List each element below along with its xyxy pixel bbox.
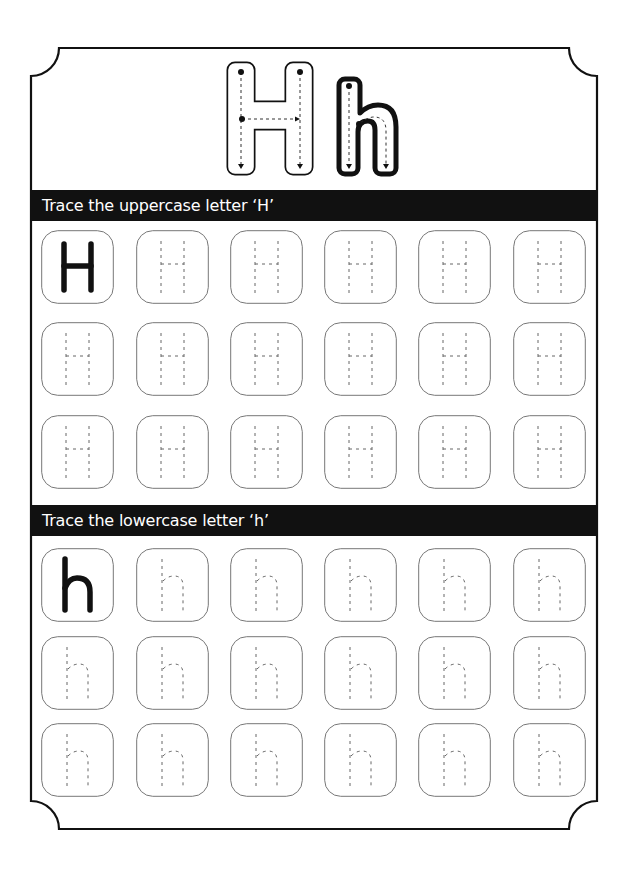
lowercase-h-dashed-letter-icon [230,723,303,797]
lowercase-h-tracing-box [513,636,586,710]
lowercase-h-tracing-box [230,723,303,797]
uppercase-h-dashed-letter-icon [230,322,303,396]
lowercase-h-dashed-letter-icon [230,636,303,710]
uppercase-h-tracing-box [136,230,209,304]
lowercase-h-solid-letter-icon [41,548,114,622]
lowercase-h-dashed-letter-icon [513,636,586,710]
uppercase-h-tracing-box [513,230,586,304]
lowercase-h-tracing-box [513,548,586,622]
uppercase-h-tracing-box [136,415,209,489]
uppercase-h-solid-letter-icon [41,230,114,304]
uppercase-h-tracing-box [324,230,397,304]
uppercase-h-dashed-letter-icon [513,415,586,489]
uppercase-h-tracing-box [324,322,397,396]
hero-letters-illustration [220,58,410,182]
lowercase-h-dashed-letter-icon [513,723,586,797]
lowercase-h-tracing-box [324,636,397,710]
lowercase-h-dashed-letter-icon [324,548,397,622]
uppercase-h-dashed-letter-icon [513,322,586,396]
lowercase-h-tracing-box [41,723,114,797]
uppercase-h-dashed-letter-icon [324,415,397,489]
uppercase-h-tracing-box [41,415,114,489]
uppercase-h-dashed-letter-icon [136,322,209,396]
uppercase-h-dashed-letter-icon [324,230,397,304]
lowercase-h-dashed-letter-icon [230,548,303,622]
uppercase-h-tracing-box [230,415,303,489]
lowercase-h-dashed-letter-icon [41,723,114,797]
lowercase-h-tracing-box [136,723,209,797]
section-header-lowercase: Trace the lowercase letter ‘h’ [32,505,597,536]
uppercase-h-dashed-letter-icon [41,415,114,489]
lowercase-h-dashed-letter-icon [136,548,209,622]
uppercase-h-tracing-box [513,415,586,489]
lowercase-h-tracing-box [418,723,491,797]
uppercase-h-dashed-letter-icon [418,230,491,304]
lowercase-h-tracing-box [418,548,491,622]
uppercase-h-tracing-box [41,322,114,396]
uppercase-h-dashed-letter-icon [230,415,303,489]
lowercase-h-dashed-letter-icon [136,723,209,797]
uppercase-h-tracing-box [418,230,491,304]
uppercase-h-dashed-letter-icon [230,230,303,304]
lowercase-h-tracing-box [230,548,303,622]
hero-lowercase-h-outline [339,79,396,174]
lowercase-h-tracing-box [513,723,586,797]
uppercase-h-dashed-letter-icon [41,322,114,396]
uppercase-h-tracing-box [418,322,491,396]
uppercase-h-tracing-box [136,322,209,396]
lowercase-h-model-letter-box [41,548,114,622]
hero-uppercase-h-outline [220,58,311,173]
uppercase-h-tracing-box [230,322,303,396]
uppercase-h-tracing-box [230,230,303,304]
lowercase-h-dashed-letter-icon [324,636,397,710]
uppercase-h-tracing-box [324,415,397,489]
uppercase-h-dashed-letter-icon [136,230,209,304]
section-header-uppercase: Trace the uppercase letter ‘H’ [32,190,597,221]
lowercase-h-tracing-box [41,636,114,710]
uppercase-h-dashed-letter-icon [513,230,586,304]
lowercase-h-dashed-letter-icon [418,548,491,622]
uppercase-h-dashed-letter-icon [136,415,209,489]
lowercase-h-tracing-box [230,636,303,710]
lowercase-h-dashed-letter-icon [513,548,586,622]
lowercase-h-tracing-box [136,636,209,710]
uppercase-h-dashed-letter-icon [418,415,491,489]
uppercase-h-model-letter-box [41,230,114,304]
lowercase-h-tracing-box [324,723,397,797]
lowercase-h-tracing-box [136,548,209,622]
lowercase-h-dashed-letter-icon [41,636,114,710]
lowercase-h-dashed-letter-icon [418,723,491,797]
lowercase-h-tracing-box [418,636,491,710]
lowercase-h-dashed-letter-icon [418,636,491,710]
uppercase-h-dashed-letter-icon [418,322,491,396]
lowercase-h-tracing-box [324,548,397,622]
uppercase-h-dashed-letter-icon [324,322,397,396]
lowercase-h-dashed-letter-icon [136,636,209,710]
uppercase-h-tracing-box [418,415,491,489]
lowercase-h-dashed-letter-icon [324,723,397,797]
uppercase-h-tracing-box [513,322,586,396]
